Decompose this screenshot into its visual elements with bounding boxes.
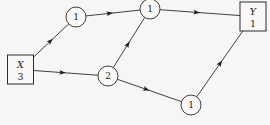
graph-node-n-top-middle[interactable]: 1 — [140, 0, 160, 19]
node-box-label-top: X — [16, 59, 25, 70]
graph-node-sink[interactable]: Y1 — [240, 2, 266, 31]
node-label: 1 — [147, 4, 153, 14]
node-box-label-bottom: 1 — [250, 18, 256, 29]
diagram-canvas: X31121Y1 — [0, 0, 270, 125]
graph-edge — [117, 79, 181, 101]
node-label: 2 — [105, 71, 111, 81]
edge-arrowhead-icon — [143, 86, 151, 93]
node-label: 1 — [188, 100, 194, 110]
graph-edge — [160, 10, 240, 16]
graph-edge — [113, 17, 144, 67]
graph-node-source[interactable]: X3 — [8, 55, 34, 84]
node-box-label-bottom: 3 — [17, 71, 23, 82]
graph-edge — [34, 24, 69, 57]
graph-edge — [197, 31, 243, 97]
graph-edge — [86, 10, 140, 16]
graph-svg: X31121Y1 — [0, 0, 270, 125]
edge-arrowhead-icon — [124, 40, 132, 48]
graph-edge — [34, 70, 99, 75]
edge-layer — [34, 10, 243, 102]
graph-node-n-upper-left[interactable]: 1 — [66, 7, 86, 27]
graph-node-n-lower-middle[interactable]: 2 — [98, 66, 118, 86]
node-label: 1 — [73, 12, 79, 22]
graph-node-n-lower-right[interactable]: 1 — [181, 95, 201, 115]
edge-arrowhead-icon — [216, 59, 224, 67]
edge-line — [34, 70, 99, 75]
node-layer: X31121Y1 — [8, 0, 267, 115]
